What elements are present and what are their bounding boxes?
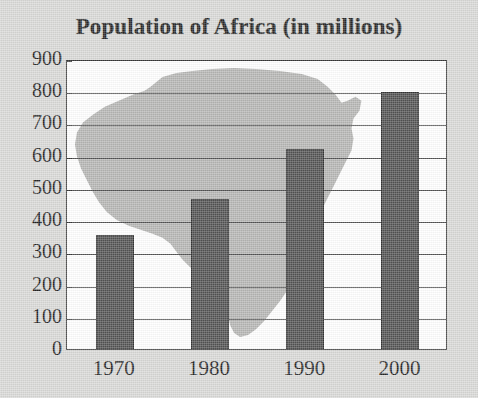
bar-2000 bbox=[381, 92, 419, 350]
y-axis-tick-label: 700 bbox=[2, 111, 62, 134]
y-axis-tick-label: 200 bbox=[2, 273, 62, 296]
y-axis-tick-mark bbox=[67, 158, 72, 159]
chart-title: Population of Africa (in millions) bbox=[0, 14, 478, 40]
plot-area bbox=[66, 60, 447, 350]
x-axis-tick-label-2000: 2000 bbox=[354, 356, 444, 381]
y-axis-tick-mark bbox=[67, 287, 72, 288]
bar-1980 bbox=[191, 199, 229, 350]
y-axis-tick-mark bbox=[67, 254, 72, 255]
y-axis-tick-mark bbox=[67, 222, 72, 223]
y-axis-tick-label: 400 bbox=[2, 208, 62, 231]
x-axis-tick-label-1980: 1980 bbox=[164, 356, 254, 381]
y-axis-tick-label: 100 bbox=[2, 305, 62, 328]
y-axis-tick-mark bbox=[67, 93, 72, 94]
y-axis-tick-label: 800 bbox=[2, 79, 62, 102]
bar-1970 bbox=[96, 235, 134, 350]
y-axis-tick-label: 500 bbox=[2, 176, 62, 199]
y-axis-tick-label: 600 bbox=[2, 144, 62, 167]
y-axis-tick-mark bbox=[67, 319, 72, 320]
y-axis-tick-label: 300 bbox=[2, 240, 62, 263]
x-axis-tick-label-1990: 1990 bbox=[259, 356, 349, 381]
bar-1990 bbox=[286, 149, 324, 350]
y-axis-tick-mark bbox=[67, 125, 72, 126]
y-axis-tick-label: 900 bbox=[2, 47, 62, 70]
y-axis-tick-label: 0 bbox=[2, 337, 62, 360]
chart-canvas: Population of Africa (in millions) 01002… bbox=[0, 0, 478, 398]
x-axis-tick-label-1970: 1970 bbox=[69, 356, 159, 381]
y-axis-tick-mark bbox=[67, 190, 72, 191]
y-axis-tick-mark bbox=[67, 61, 72, 62]
